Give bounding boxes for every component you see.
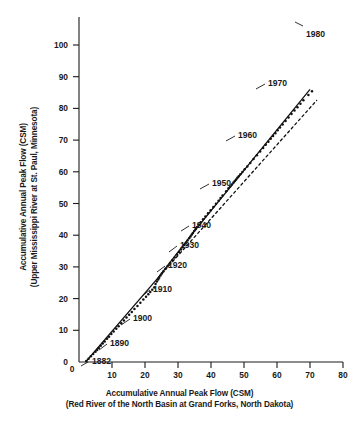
reference-line-path xyxy=(158,100,316,277)
y-tick-label-50: 50 xyxy=(40,199,68,209)
data-point xyxy=(212,206,215,209)
data-point xyxy=(290,113,293,116)
data-point xyxy=(265,144,268,147)
data-point xyxy=(147,293,150,296)
data-point xyxy=(219,197,222,200)
data-point xyxy=(207,212,210,215)
x-tick-label-20: 20 xyxy=(133,370,157,380)
y-tick-label-100: 100 xyxy=(40,40,68,50)
y-axis-ticks xyxy=(73,45,79,330)
data-point xyxy=(85,360,88,363)
year-label-1940: 1940 xyxy=(192,220,211,230)
data-point xyxy=(178,251,181,254)
leader-line-1960 xyxy=(226,136,235,141)
data-point xyxy=(217,199,220,202)
data-point xyxy=(293,109,296,112)
data-point xyxy=(256,154,259,157)
data-point xyxy=(94,351,97,354)
data-point xyxy=(311,90,314,93)
data-point xyxy=(173,256,176,259)
x-tick-label-70: 70 xyxy=(298,370,322,380)
y-tick-label-30: 30 xyxy=(40,262,68,272)
data-point xyxy=(125,316,128,319)
year-label-1970: 1970 xyxy=(268,78,287,88)
data-point xyxy=(98,347,101,350)
x-axis-title: Accumulative Annual Peak Flow (CSM) (Red… xyxy=(0,388,359,410)
data-point xyxy=(100,345,103,348)
data-point xyxy=(96,349,99,352)
data-point xyxy=(164,268,167,271)
data-point xyxy=(209,209,212,212)
data-point xyxy=(225,190,228,193)
year-label-1910: 1910 xyxy=(153,284,172,294)
data-point xyxy=(279,126,282,129)
data-point xyxy=(136,305,139,308)
leader-line-1980 xyxy=(295,22,303,26)
data-point xyxy=(259,150,262,153)
data-point xyxy=(237,175,240,178)
data-point xyxy=(262,147,265,150)
data-point xyxy=(287,116,290,119)
annotation-leader-lines xyxy=(81,22,303,366)
data-point xyxy=(123,319,126,322)
data-point xyxy=(276,129,279,132)
x-tick-label-0: 0 xyxy=(60,364,84,374)
year-label-1920: 1920 xyxy=(168,260,187,270)
data-point xyxy=(128,314,131,317)
x-axis-title-main: Accumulative Annual Peak Flow (CSM) xyxy=(0,388,359,399)
x-tick-label-50: 50 xyxy=(232,370,256,380)
year-label-1930: 1930 xyxy=(180,240,199,250)
data-point xyxy=(106,338,109,341)
data-point xyxy=(87,358,90,361)
y-axis-title-main: Accumulative Annual Peak Flow (CSM) xyxy=(18,17,29,377)
y-tick-label-60: 60 xyxy=(40,167,68,177)
data-point xyxy=(215,203,218,206)
data-point xyxy=(110,333,113,336)
data-point xyxy=(149,291,152,294)
data-point xyxy=(139,301,142,304)
data-point xyxy=(239,173,242,176)
data-point xyxy=(103,340,106,343)
year-label-1882: 1882 xyxy=(92,356,111,366)
year-label-1960: 1960 xyxy=(238,130,257,140)
data-point xyxy=(243,168,246,171)
x-tick-label-40: 40 xyxy=(199,370,223,380)
leader-line-1940 xyxy=(181,226,189,231)
data-point xyxy=(133,308,136,311)
data-point xyxy=(246,165,249,168)
data-point xyxy=(274,132,277,135)
data-point xyxy=(161,272,164,275)
data-point xyxy=(112,330,115,333)
data-point xyxy=(284,120,287,123)
reference-line xyxy=(158,100,316,277)
data-point xyxy=(142,298,145,301)
leader-line-1930 xyxy=(169,246,177,252)
data-point xyxy=(158,276,161,279)
y-axis-title-sub: (Upper Mississippi River at St. Paul, Mi… xyxy=(29,17,40,377)
leader-line-1970 xyxy=(256,84,265,89)
x-axis-title-sub: (Red River of the North Basin at Grand F… xyxy=(0,399,359,410)
data-point xyxy=(267,140,270,143)
y-tick-label-90: 90 xyxy=(40,72,68,82)
data-point xyxy=(302,99,305,102)
data-point xyxy=(176,253,179,256)
data-point xyxy=(296,106,299,109)
x-tick-label-30: 30 xyxy=(166,370,190,380)
data-point xyxy=(241,171,244,174)
year-label-1900: 1900 xyxy=(133,313,152,323)
x-tick-label-60: 60 xyxy=(265,370,289,380)
data-point xyxy=(115,327,118,330)
data-point xyxy=(307,94,310,97)
year-label-1950: 1950 xyxy=(212,178,231,188)
data-point xyxy=(281,123,284,126)
data-point xyxy=(162,270,165,273)
data-point xyxy=(92,353,95,356)
data-point xyxy=(299,102,302,105)
data-point xyxy=(249,162,252,165)
data-point xyxy=(269,138,272,141)
x-axis-ticks xyxy=(112,362,343,368)
double-mass-curve-figure: 0102030405060708090100 01020304050607080… xyxy=(0,0,359,430)
data-point xyxy=(272,135,275,138)
y-tick-label-70: 70 xyxy=(40,135,68,145)
y-tick-label-20: 20 xyxy=(40,294,68,304)
